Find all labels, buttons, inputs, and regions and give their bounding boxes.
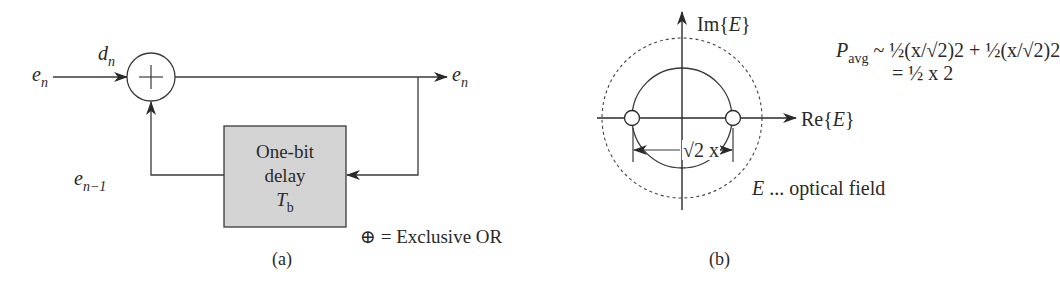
feedback-path-right [347, 77, 418, 175]
constellation-point-left [625, 111, 640, 126]
delay-box-line2: delay [224, 164, 346, 188]
caption-b: (b) [709, 250, 730, 268]
average-power-result: = ½ x 2 [892, 63, 953, 83]
feedback-path-left [151, 102, 224, 175]
distance-label: √2 x [682, 140, 720, 160]
output-label: en [452, 64, 468, 84]
delay-box-text: One-bit delay Tb [224, 140, 346, 212]
imaginary-axis-label: Im{E} [697, 14, 751, 34]
xor-legend: ⊕ = Exclusive OR [360, 227, 502, 246]
caption-a: (a) [272, 250, 292, 268]
average-power-formula: Pavg ~ ½(x/√2)2 + ½(x/√2)2 [836, 40, 1060, 60]
input-label: en [32, 64, 48, 84]
input-bit-label: dn [98, 43, 115, 63]
constellation-point-right [726, 111, 741, 126]
field-note: E ... optical field [752, 178, 885, 198]
feedback-label: en−1 [74, 168, 106, 188]
delay-box-line3: Tb [224, 188, 346, 212]
delay-box-line1: One-bit [224, 140, 346, 164]
real-axis-label: Re{E} [801, 109, 855, 129]
